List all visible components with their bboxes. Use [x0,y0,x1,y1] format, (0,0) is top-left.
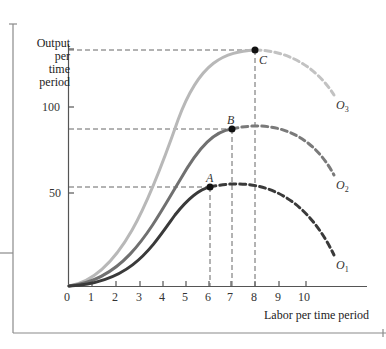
curve-o3-label-sub: 3 [345,105,349,114]
curve-o2-label: O2 [336,178,349,194]
curve-o1-label-main: O [336,258,345,272]
curve-o2-label-sub: 2 [345,185,349,194]
x-tick-1: 1 [88,291,94,304]
x-tick-3: 3 [136,291,142,304]
reference-lines [69,50,255,286]
x-tick-2: 2 [112,291,118,304]
curve-o1-label-sub: 1 [345,265,349,274]
x-tick-4: 4 [159,291,165,304]
x-tick-0: 0 [64,291,70,304]
curve-o1-label: O1 [336,258,349,274]
x-tick-6: 6 [205,291,211,304]
x-tick-8: 8 [251,291,257,304]
point-c [252,47,259,54]
point-b-label: B [227,113,234,128]
curve-o3-label: O3 [336,98,349,114]
x-tick-7: 7 [227,291,233,304]
curve-o3 [69,50,334,286]
point-c-label: C [259,53,267,68]
y-axis-title: Output per time period [22,37,70,89]
ylabel-line: period [22,76,70,89]
x-tick-5: 5 [182,291,188,304]
x-axis-title: Labor per time period [264,308,369,323]
point-a-label: A [206,171,213,186]
x-tick-9: 9 [275,291,281,304]
x-tick-10: 10 [298,291,310,304]
y-tick-100: 100 [42,101,60,114]
curve-o3-label-main: O [336,98,345,112]
y-tick-50: 50 [49,187,61,200]
curve-o2-label-main: O [336,178,345,192]
